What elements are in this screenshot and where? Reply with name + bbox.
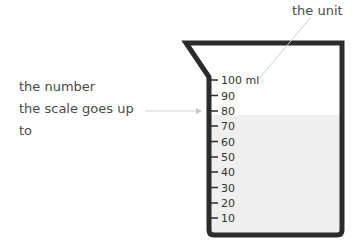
scale-label-70: 70 (221, 120, 235, 133)
scale-label-90: 90 (221, 90, 235, 103)
scale-label-40: 40 (221, 166, 235, 179)
scale-label-20: 20 (221, 197, 235, 210)
scale-label-80: 80 (221, 105, 235, 118)
scale-label-100: 100 ml (221, 74, 259, 87)
scale-label-30: 30 (221, 182, 235, 195)
scale-label-60: 60 (221, 136, 235, 149)
beaker-diagram: 100 ml 90 80 70 60 50 40 30 20 10 (0, 0, 357, 251)
arrow-head-icon (196, 108, 202, 114)
scale-label-10: 10 (221, 212, 235, 225)
unit-leader-line (258, 17, 311, 80)
scale-label-50: 50 (221, 151, 235, 164)
